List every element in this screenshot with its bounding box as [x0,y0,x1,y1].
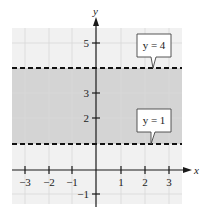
x-axis-label: x [193,164,199,176]
y-tick-label: −1 [77,188,89,200]
x-axis-arrow-icon [183,167,192,173]
x-tick-label: 1 [118,176,124,188]
x-tick-label: 2 [142,176,148,188]
callout-y4-text: y = 4 [143,39,166,51]
shaded-region [12,68,182,144]
inequality-graph: x y −3 −2 −1 1 2 3 5 3 2 −1 y = 4 y = 1 [0,0,203,214]
y-axis-label: y [92,5,98,17]
x-tick-label: −3 [19,176,31,188]
y-tick-label: 2 [84,112,90,124]
x-tick-label: 3 [166,176,172,188]
y-tick-label: 5 [84,37,90,49]
x-tick-label: −1 [66,176,78,188]
x-tick-label: −2 [43,176,55,188]
y-tick-label: 3 [84,87,90,99]
y-axis-arrow-icon [93,17,99,26]
callout-y1-text: y = 1 [143,114,166,126]
